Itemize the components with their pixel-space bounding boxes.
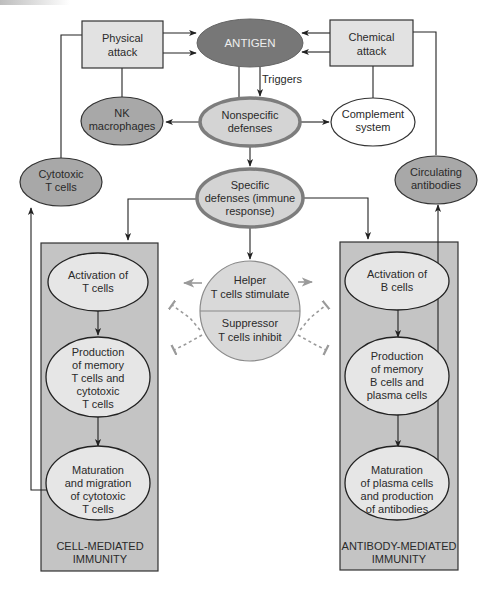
nonspecific-defenses-node: Nonspecific defenses (200, 98, 300, 146)
helper-suppressor-node: Helper T cells stimulate Suppressor T ce… (200, 261, 300, 361)
cytotoxic-label-1: Cytotoxic (38, 168, 84, 180)
activation-of-t-cells-node: Activation of T cells (48, 253, 148, 311)
cytotoxic-t-cells-node: Cytotoxic T cells (20, 158, 102, 206)
chemical-attack-node: Chemical attack (330, 20, 413, 66)
nonspecific-label-1: Nonspecific (222, 109, 279, 121)
step-label: T cells and (72, 372, 125, 384)
step-label: B cells (381, 281, 414, 293)
suppressor-label-2: T cells inhibit (218, 331, 281, 343)
circulating-label-1: Circulating (410, 166, 462, 178)
complement-system-node: Complement system (331, 98, 415, 146)
step-label: T cells (82, 503, 114, 515)
immune-response-diagram: Physical attack Chemical attack ANTIGEN … (0, 0, 498, 589)
specific-defenses-node: Specific defenses (immune response) (197, 169, 303, 227)
chemical-attack-label-2: attack (357, 45, 387, 57)
specific-label-2: defenses (immune (205, 192, 296, 204)
step-label: B cells and (370, 376, 424, 388)
step-label: cytotoxic (77, 385, 120, 397)
step-label: Activation of (367, 268, 428, 280)
physical-attack-node: Physical attack (82, 21, 163, 68)
activation-of-b-cells-node: Activation of B cells (345, 252, 449, 310)
specific-label-3: response) (226, 205, 275, 217)
step-label: and production (361, 490, 434, 502)
step-label: of plasma cells (361, 477, 434, 489)
nk-label-1: NK (114, 107, 130, 119)
nk-macrophages-node: NK macrophages (81, 97, 163, 145)
step-label: of memory (72, 359, 124, 371)
cell-mediated-title-1: CELL-MEDIATED (56, 540, 143, 552)
complement-label-2: system (356, 121, 391, 133)
step-label: Maturation (72, 464, 124, 476)
step-label: and migration (65, 477, 132, 489)
step-label: of memory (371, 363, 423, 375)
step-label: Production (371, 350, 424, 362)
antibody-mediated-title-2: IMMUNITY (372, 553, 427, 565)
production-memory-b-cells-node: Production of memory B cells and plasma … (345, 337, 449, 415)
physical-attack-label-2: attack (108, 46, 138, 58)
production-memory-t-cells-node: Production of memory T cells and cytotox… (46, 337, 150, 417)
step-label: T cells (82, 398, 114, 410)
helper-label-2: T cells stimulate (211, 288, 290, 300)
complement-label-1: Complement (342, 108, 404, 120)
step-label: Activation of (68, 269, 129, 281)
suppressor-label-1: Suppressor (222, 317, 279, 329)
cell-mediated-title-2: IMMUNITY (73, 553, 128, 565)
helper-label-1: Helper (234, 274, 267, 286)
nk-label-2: macrophages (89, 120, 156, 132)
step-label: Maturation (371, 464, 423, 476)
circulating-label-2: antibodies (411, 179, 462, 191)
nonspecific-label-2: defenses (228, 122, 273, 134)
cytotoxic-label-2: T cells (45, 181, 77, 193)
step-label: plasma cells (367, 389, 428, 401)
antibody-mediated-title-1: ANTIBODY-MEDIATED (342, 540, 457, 552)
chemical-attack-label-1: Chemical (349, 31, 395, 43)
maturation-plasma-cells-node: Maturation of plasma cells and productio… (345, 446, 449, 520)
circulating-antibodies-node: Circulating antibodies (395, 156, 477, 204)
step-label: Production (72, 346, 125, 358)
specific-label-1: Specific (231, 179, 270, 191)
step-label: T cells (82, 282, 114, 294)
maturation-migration-node: Maturation and migration of cytotoxic T … (46, 446, 150, 520)
step-label: of cytotoxic (70, 490, 126, 502)
physical-attack-label-1: Physical (102, 32, 143, 44)
antigen-label: ANTIGEN (224, 37, 275, 49)
antigen-node: ANTIGEN (197, 19, 303, 67)
step-label: of antibodies (366, 503, 429, 515)
triggers-label: Triggers (262, 73, 302, 85)
